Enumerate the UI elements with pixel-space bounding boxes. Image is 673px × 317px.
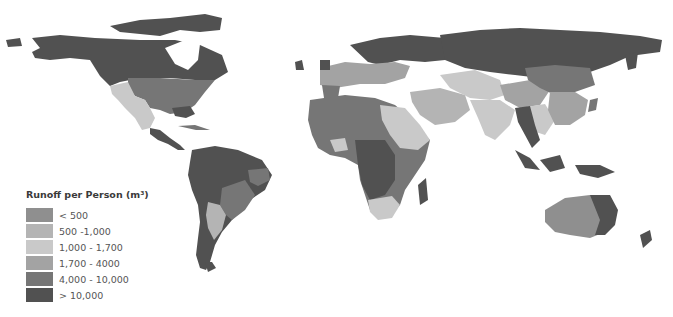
- legend-swatch-gt10000: [26, 288, 53, 302]
- legend-swatch-4000-10000: [26, 272, 53, 286]
- legend-swatch-1700-4000: [26, 256, 53, 270]
- legend-item: 4,000 - 10,000: [26, 271, 149, 287]
- legend-label: 500 -1,000: [59, 226, 111, 237]
- legend-swatch-1000-1700: [26, 240, 53, 254]
- legend-item: 1,700 - 4000: [26, 255, 149, 271]
- legend-label: 1,000 - 1,700: [59, 242, 123, 253]
- africa: [308, 95, 430, 220]
- map-legend: Runoff per Person (m³) < 500 500 -1,000 …: [26, 189, 149, 303]
- legend-label: < 500: [59, 210, 88, 221]
- legend-title: Runoff per Person (m³): [26, 189, 149, 200]
- legend-label: > 10,000: [59, 290, 103, 301]
- legend-item: 500 -1,000: [26, 223, 149, 239]
- legend-item: > 10,000: [26, 287, 149, 303]
- legend-swatch-lt500: [26, 208, 53, 222]
- oceania: [545, 195, 652, 248]
- legend-item: 1,000 - 1,700: [26, 239, 149, 255]
- north-america: [6, 14, 228, 150]
- legend-label: 1,700 - 4000: [59, 258, 120, 269]
- legend-item: < 500: [26, 207, 149, 223]
- south-america: [188, 146, 272, 272]
- europe: [295, 35, 445, 98]
- legend-swatch-500-1000: [26, 224, 53, 238]
- legend-label: 4,000 - 10,000: [59, 274, 129, 285]
